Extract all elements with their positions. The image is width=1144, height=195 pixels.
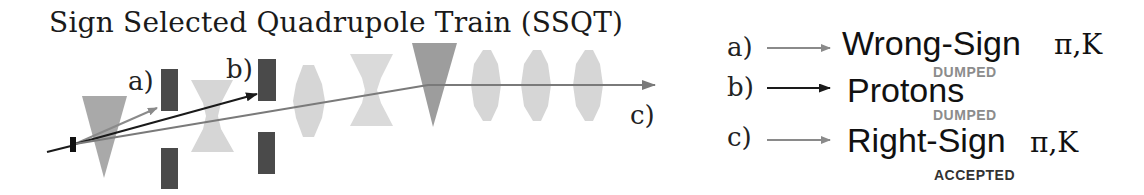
legend-status-c: ACCEPTED — [934, 167, 1015, 183]
collimator-2-upper — [258, 59, 276, 101]
quadrupole-defocus-1 — [191, 80, 234, 152]
beam-label-a: a) — [128, 66, 154, 96]
diagram-title: Sign Selected Quadrupole Train (SSQT) — [49, 6, 623, 39]
beam-label-b: b) — [226, 54, 253, 84]
legend-label-right-sign: Right-Sign — [847, 121, 1006, 160]
collimator-1-lower — [161, 148, 178, 189]
legend-label-wrong-sign: Wrong-Sign — [842, 24, 1021, 63]
legend-particles-a: π,K — [1054, 28, 1102, 61]
legend-label-protons: Protons — [847, 71, 964, 110]
collimator-1-upper — [161, 69, 178, 111]
legend-key-a: a) — [727, 32, 753, 62]
legend-key-b: b) — [727, 72, 754, 102]
legend-key-c: c) — [727, 122, 752, 152]
quadrupole-defocus-2 — [350, 54, 393, 126]
legend-particles-c: π,K — [1030, 126, 1078, 159]
quadrupole-focus-1 — [293, 65, 325, 137]
beam-label-c: c) — [630, 100, 655, 130]
collimator-2-lower — [258, 132, 275, 174]
target-marker — [70, 137, 76, 152]
